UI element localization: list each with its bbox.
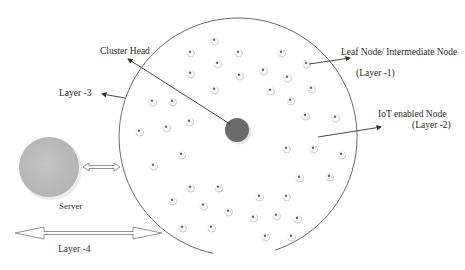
iot-node-arrow — [318, 127, 381, 137]
sensor-node — [169, 197, 177, 205]
server-cluster-link — [83, 163, 120, 171]
sensor-node — [179, 224, 187, 232]
sensor-node — [278, 49, 286, 57]
sensor-node — [236, 72, 244, 80]
sensor-node — [284, 74, 292, 82]
sensor-node — [225, 208, 233, 216]
cluster-head-label: Cluster Head — [100, 47, 150, 57]
sensor-node — [235, 49, 243, 57]
leaf-node-label: Leaf Node/ Intermediate Node — [341, 48, 457, 58]
sensor-node — [200, 202, 208, 210]
sensor-node — [326, 173, 334, 181]
sensor-node — [208, 224, 216, 232]
sensor-node — [283, 145, 291, 153]
iot-cluster-diagram — [0, 0, 465, 270]
sensor-node — [273, 212, 281, 220]
cluster-head — [225, 118, 252, 145]
iot-node-label: IoT enabled Node — [378, 110, 446, 120]
sensor-node — [214, 60, 222, 68]
layer3-arrow — [102, 94, 125, 98]
server-label: Server — [59, 202, 83, 211]
sensor-node — [169, 98, 177, 106]
server — [19, 137, 82, 200]
sensor-node — [310, 145, 318, 153]
sensor-node — [267, 87, 275, 95]
leaf-node-arrow — [309, 58, 350, 64]
sensor-node — [256, 193, 264, 201]
sensor-node — [211, 37, 219, 45]
layer4-label: Layer -4 — [58, 245, 90, 255]
sensor-node — [187, 184, 195, 192]
sensor-node — [215, 184, 223, 192]
layer3-label: Layer -3 — [59, 89, 91, 99]
sensor-node — [294, 215, 302, 223]
sensor-node — [283, 193, 291, 201]
layer4-span-arrow — [15, 227, 162, 239]
layer2-label: (Layer -2) — [412, 121, 451, 131]
sensor-node — [302, 112, 310, 120]
sensor-node — [178, 151, 186, 159]
sensor-node — [262, 233, 270, 241]
sensor-node — [287, 97, 295, 105]
sensor-node — [163, 124, 171, 132]
sensor-node — [260, 67, 268, 75]
sensor-node — [332, 114, 340, 122]
sensor-node — [211, 86, 219, 94]
sensor-node — [338, 151, 346, 159]
sensor-node — [308, 85, 316, 93]
sensor-node — [187, 70, 195, 78]
sensor-node — [150, 162, 158, 170]
layer1-label: (Layer -1) — [356, 69, 395, 79]
sensor-node — [296, 174, 304, 182]
sensor-node — [250, 214, 258, 222]
sensor-node — [136, 128, 144, 136]
sensor-node — [187, 49, 195, 57]
sensor-node — [149, 98, 157, 106]
sensor-node — [288, 233, 296, 241]
sensor-node — [186, 118, 194, 126]
